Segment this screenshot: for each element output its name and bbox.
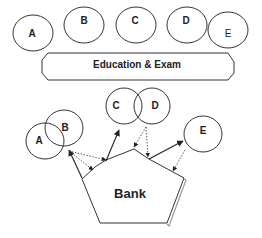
top-circle-e-label: E xyxy=(225,28,232,39)
bank-shape: Bank xyxy=(82,149,186,226)
top-circle-c: C xyxy=(116,7,156,43)
bottom-circle-d: D xyxy=(134,88,170,124)
bottom-circle-c-label: C xyxy=(112,100,119,111)
bottom-circle-e-label: E xyxy=(200,125,207,136)
bottom-circle-a-label: A xyxy=(35,135,42,146)
top-circle-a-label: A xyxy=(28,28,35,39)
top-circle-c-label: C xyxy=(131,15,138,26)
top-circle-e: E xyxy=(208,12,248,48)
bottom-circle-b-label: B xyxy=(61,122,68,133)
top-circle-d-label: D xyxy=(182,15,189,26)
bottom-circle-d-label: D xyxy=(151,100,158,111)
top-circle-a: A xyxy=(13,15,53,51)
bottom-circle-e: E xyxy=(184,116,222,152)
education-exam-banner: Education & Exam xyxy=(42,53,234,80)
banner-label: Education & Exam xyxy=(93,59,181,70)
top-circle-b-label: B xyxy=(80,15,87,26)
bottom-circle-c: C xyxy=(106,88,142,124)
top-circle-d: D xyxy=(167,7,207,43)
bank-label: Bank xyxy=(114,186,147,201)
diagram-canvas: A B C D E Education & Exam A B C D xyxy=(0,0,262,238)
top-circle-b: B xyxy=(64,7,104,43)
